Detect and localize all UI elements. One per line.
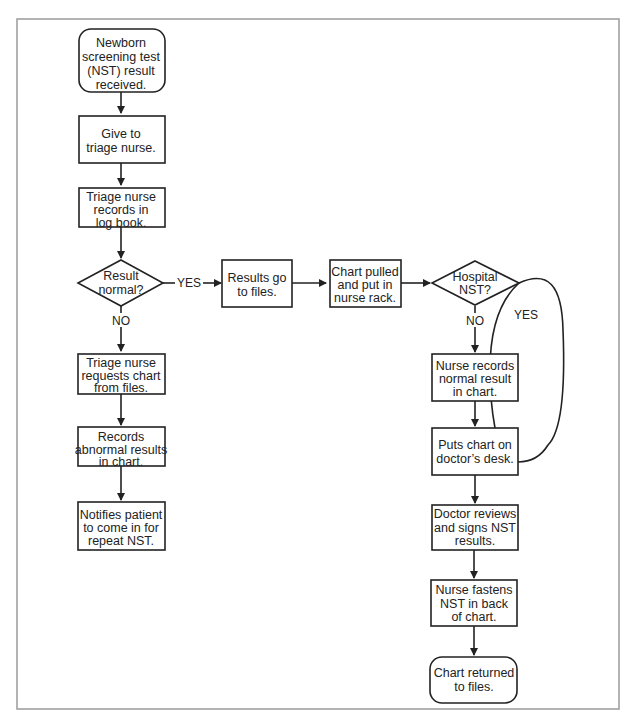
svg-text:and put in: and put in	[338, 278, 393, 292]
edge-label-yes: YES	[177, 276, 201, 290]
svg-text:Chart returned: Chart returned	[434, 666, 515, 680]
svg-text:Hospital: Hospital	[452, 270, 497, 284]
svg-text:Records: Records	[98, 430, 145, 444]
node-doctor-reviews: Doctor reviews and signs NST results.	[432, 505, 518, 550]
svg-text:Triage nurse: Triage nurse	[86, 190, 156, 204]
svg-text:Doctor reviews: Doctor reviews	[434, 507, 517, 521]
svg-text:to files.: to files.	[237, 285, 277, 299]
svg-text:results.: results.	[455, 534, 495, 548]
node-chart-returned: Chart returned to files.	[430, 657, 517, 703]
edge-label-no: NO	[112, 314, 130, 328]
edge-label-yes: YES	[514, 308, 538, 322]
svg-text:normal?: normal?	[98, 283, 143, 297]
node-chart-pulled: Chart pulled and put in nurse rack.	[330, 260, 401, 307]
node-triage-requests-chart: Triage nurse requests chart from files.	[78, 354, 165, 395]
svg-text:log book.: log book.	[96, 216, 147, 230]
svg-text:of chart.: of chart.	[451, 610, 496, 624]
svg-text:nurse rack.: nurse rack.	[334, 291, 396, 305]
node-nurse-records-normal: Nurse records normal result in chart.	[432, 354, 518, 401]
svg-text:Puts chart on: Puts chart on	[438, 438, 512, 452]
node-nurse-fastens: Nurse fastens NST in back of chart.	[431, 580, 517, 626]
svg-text:Newborn: Newborn	[96, 36, 146, 50]
svg-text:Result: Result	[103, 269, 139, 283]
svg-text:records in: records in	[94, 203, 149, 217]
svg-text:Nurse fastens: Nurse fastens	[435, 583, 512, 597]
svg-text:Triage nurse: Triage nurse	[86, 356, 156, 370]
svg-text:in chart.: in chart.	[99, 455, 143, 469]
svg-text:triage nurse.: triage nurse.	[86, 141, 155, 155]
node-triage-records-log: Triage nurse records in log book.	[79, 188, 165, 230]
svg-text:Give to: Give to	[101, 127, 141, 141]
decision-result-normal: Result normal?	[78, 260, 163, 306]
node-results-go-to-files: Results go to files.	[222, 260, 292, 307]
svg-text:repeat NST.: repeat NST.	[88, 534, 154, 548]
svg-text:to come in for: to come in for	[83, 521, 159, 535]
svg-text:received.: received.	[96, 78, 147, 92]
node-puts-chart-on-desk: Puts chart on doctor’s desk.	[432, 428, 518, 475]
svg-text:in chart.: in chart.	[453, 385, 497, 399]
svg-text:NST?: NST?	[459, 283, 491, 297]
svg-text:normal result: normal result	[439, 372, 512, 386]
svg-text:(NST) result: (NST) result	[87, 64, 155, 78]
node-records-abnormal: Records abnormal results in chart.	[75, 427, 167, 469]
svg-text:to files.: to files.	[454, 680, 494, 694]
svg-text:doctor’s desk.: doctor’s desk.	[436, 452, 513, 466]
svg-text:Chart pulled: Chart pulled	[331, 265, 398, 279]
node-give-to-triage: Give to triage nurse.	[79, 116, 165, 163]
svg-text:NST in back: NST in back	[440, 597, 509, 611]
svg-text:screening test: screening test	[82, 50, 160, 64]
svg-text:Nurse records: Nurse records	[436, 359, 515, 373]
node-nst-received: Newborn screening test (NST) result rece…	[79, 29, 165, 92]
svg-text:from files.: from files.	[94, 381, 148, 395]
svg-text:Results go: Results go	[227, 271, 286, 285]
flowchart: YES NO NO YES Newborn screening test (NS…	[0, 0, 630, 722]
edge-d2-yes-outer	[518, 278, 564, 462]
node-notifies-patient: Notifies patient to come in for repeat N…	[78, 502, 165, 550]
edge-label-no: NO	[466, 314, 484, 328]
svg-text:Notifies patient: Notifies patient	[80, 508, 163, 522]
svg-text:and signs NST: and signs NST	[434, 521, 516, 535]
